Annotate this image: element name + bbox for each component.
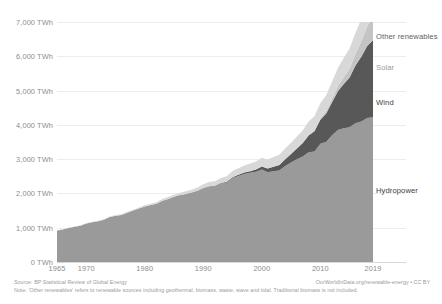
footer-source: Source: BP Statistical Review of Global … [14, 279, 127, 285]
footer: Source: BP Statistical Review of Global … [14, 279, 430, 295]
footer-row-source: Source: BP Statistical Review of Global … [14, 279, 430, 287]
chart-root: 0 TWh1,000 TWh2,000 TWh3,000 TWh4,000 TW… [0, 0, 442, 304]
x-tick-label-2000: 2000 [253, 264, 270, 273]
footer-row-note: Note: 'Other renewables' refers to renew… [14, 287, 430, 295]
x-tick-label-1970: 1970 [78, 264, 95, 273]
stacked-area-svg [57, 22, 373, 262]
x-tick-label-2019: 2019 [365, 264, 382, 273]
x-tick-label-1980: 1980 [136, 264, 153, 273]
x-tick-label-1990: 1990 [195, 264, 212, 273]
y-tick-label-6000: 6,000 TWh [16, 52, 53, 61]
x-tick-label-2010: 2010 [312, 264, 329, 273]
footer-note: Note: 'Other renewables' refers to renew… [14, 287, 358, 293]
footer-attribution[interactable]: OurWorldInData.org/renewable-energy • CC… [316, 279, 430, 285]
y-tick-label-4000: 4,000 TWh [16, 120, 53, 129]
series-label-wind[interactable]: Wind [376, 98, 394, 107]
series-label-hydropower[interactable]: Hydropower [376, 186, 418, 195]
y-tick-label-1000: 1,000 TWh [16, 223, 53, 232]
series-label-solar[interactable]: Solar [376, 63, 394, 72]
y-tick-label-5000: 5,000 TWh [16, 86, 53, 95]
plot-area [57, 22, 373, 262]
y-tick-label-7000: 7,000 TWh [16, 18, 53, 27]
y-tick-label-3000: 3,000 TWh [16, 155, 53, 164]
y-tick-label-2000: 2,000 TWh [16, 189, 53, 198]
gridline-0 [57, 262, 406, 263]
x-tick-label-1965: 1965 [49, 264, 66, 273]
series-label-other-renewables[interactable]: Other renewables [376, 32, 438, 41]
